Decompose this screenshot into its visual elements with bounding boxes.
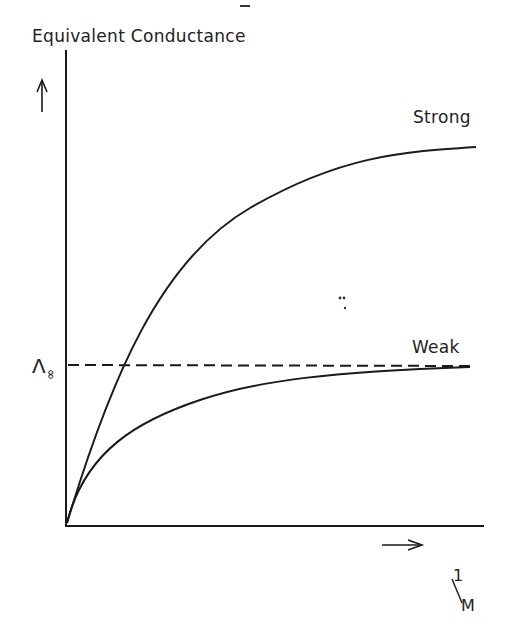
strong-curve <box>67 147 476 523</box>
weak-curve <box>67 367 470 523</box>
chart-plot <box>0 0 507 633</box>
lambda-infinity-label: Λ∞ <box>32 354 57 378</box>
x-arrow-icon <box>382 540 422 550</box>
weak-label: Weak <box>412 337 460 357</box>
lambda-infinity-line <box>68 365 470 366</box>
y-arrow-icon <box>37 80 47 112</box>
infinity-subscript: ∞ <box>44 369 59 380</box>
x-label-denominator: M <box>461 596 475 615</box>
strong-label: Strong <box>413 107 471 127</box>
